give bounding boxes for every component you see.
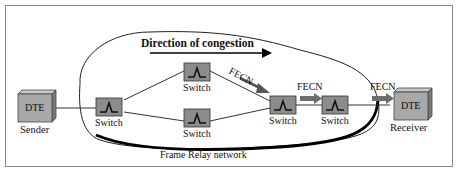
fecn-arrow-3 [372, 93, 394, 104]
switch-icon [184, 63, 210, 81]
switch-icon [270, 96, 296, 114]
switch-icon [184, 109, 210, 127]
direction-label: Direction of congestion [141, 38, 254, 50]
receiver-dte-label: DTE [401, 101, 420, 111]
sender-dte-label: DTE [25, 103, 44, 113]
switch-label-4: Switch [269, 116, 297, 126]
network-label: Frame Relay network [160, 150, 247, 160]
switch-icon [322, 96, 348, 114]
switch-label-3: Switch [183, 129, 211, 139]
fecn-label-2: FECN [297, 82, 323, 92]
switch-label-5: Switch [321, 116, 349, 126]
switch-label-2: Switch [183, 83, 211, 93]
switch-label-1: Switch [95, 118, 123, 128]
fecn-arrow-2 [300, 93, 322, 104]
switch-icon [96, 98, 122, 116]
sender-caption: Sender [20, 125, 49, 136]
fecn-label-3: FECN [370, 82, 396, 92]
receiver-caption: Receiver [390, 123, 427, 134]
congestion-direction-arrowhead [262, 48, 272, 58]
